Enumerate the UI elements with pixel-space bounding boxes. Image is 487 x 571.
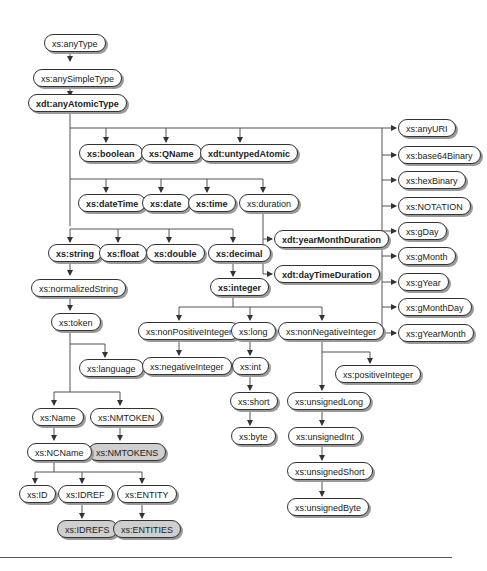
node-unsignedByte: xs:unsignedByte bbox=[287, 498, 369, 516]
node-yearMonthDuration: xdt:yearMonthDuration bbox=[274, 230, 389, 248]
node-QName: xs:QName bbox=[141, 144, 202, 162]
node-NCName: xs:NCName bbox=[27, 443, 92, 461]
node-Name: xs:Name bbox=[32, 408, 84, 426]
node-long: xs:long bbox=[231, 322, 276, 340]
node-byte: xs:byte bbox=[231, 427, 276, 445]
node-NMTOKENS: xs:NMTOKENS bbox=[88, 443, 166, 461]
node-string: xs:string bbox=[48, 244, 102, 262]
bottom-divider bbox=[0, 557, 452, 558]
node-ID: xs:ID bbox=[19, 485, 56, 503]
node-anySimpleType: xs:anySimpleType bbox=[33, 69, 122, 87]
node-decimal: xs:decimal bbox=[208, 244, 271, 262]
node-unsignedInt: xs:unsignedInt bbox=[288, 427, 362, 445]
node-float: xs:float bbox=[99, 244, 147, 262]
node-gYear: xs:gYear bbox=[398, 273, 449, 291]
node-boolean: xs:boolean bbox=[79, 144, 143, 162]
node-dateTime: xs:dateTime bbox=[78, 194, 146, 212]
node-double: xs:double bbox=[146, 244, 205, 262]
node-hexBinary: xs:hexBinary bbox=[398, 171, 466, 189]
node-unsignedLong: xs:unsignedLong bbox=[287, 392, 371, 410]
node-base64Binary: xs:base64Binary bbox=[398, 146, 481, 164]
node-dayTimeDuration: xdt:dayTimeDuration bbox=[274, 265, 380, 283]
node-time: xs:time bbox=[188, 194, 236, 212]
node-duration: xs:duration bbox=[239, 194, 299, 212]
node-nonNegativeInteger: xs:nonNegativeInteger bbox=[278, 322, 384, 340]
node-short: xs:short bbox=[230, 392, 278, 410]
node-date: xs:date bbox=[142, 194, 190, 212]
node-gDay: xs:gDay bbox=[398, 222, 447, 240]
node-negativeInteger: xs:negativeInteger bbox=[142, 357, 232, 375]
node-anyURI: xs:anyURI bbox=[398, 119, 456, 137]
node-ENTITIES: xs:ENTITIES bbox=[113, 520, 181, 538]
node-token: xs:token bbox=[51, 313, 101, 331]
node-language: xs:language bbox=[79, 359, 144, 377]
node-unsignedShort: xs:unsignedShort bbox=[287, 462, 373, 480]
node-int: xs:int bbox=[232, 357, 269, 375]
node-IDREFS: xs:IDREFS bbox=[57, 520, 118, 538]
node-NMTOKEN: xs:NMTOKEN bbox=[90, 408, 162, 426]
node-anyType: xs:anyType bbox=[44, 34, 106, 52]
node-positiveInteger: xs:positiveInteger bbox=[335, 365, 421, 383]
node-NOTATION: xs:NOTATION bbox=[398, 197, 471, 215]
node-anyAtomicType: xdt:anyAtomicType bbox=[28, 94, 127, 112]
node-gMonth: xs:gMonth bbox=[398, 247, 456, 265]
node-gMonthDay: xs:gMonthDay bbox=[398, 298, 472, 316]
node-nonPositiveInteger: xs:nonPositiveInteger bbox=[138, 322, 240, 340]
node-gYearMonth: xs:gYearMonth bbox=[398, 324, 474, 342]
node-normalizedString: xs:normalizedString bbox=[31, 279, 126, 297]
type-hierarchy-diagram: xs:anyType xs:anySimpleType xdt:anyAtomi… bbox=[0, 0, 487, 571]
node-ENTITY: xs:ENTITY bbox=[117, 485, 177, 503]
node-integer: xs:integer bbox=[210, 278, 269, 296]
node-IDREF: xs:IDREF bbox=[58, 485, 113, 503]
node-untypedAtomic: xdt:untypedAtomic bbox=[200, 144, 298, 162]
